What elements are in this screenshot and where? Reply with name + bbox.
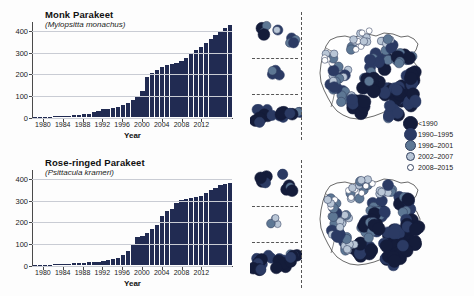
x-tick-label: 1984	[55, 269, 71, 276]
bar	[204, 43, 208, 117]
y-tick-label: 0	[0, 262, 28, 271]
bar	[199, 47, 203, 117]
species-latin-name: (Psittacula krameri)	[45, 169, 145, 177]
species-common-name: Rose-ringed Parakeet	[45, 158, 145, 168]
y-tick-label: 0	[0, 114, 28, 123]
map-occurrence-point	[348, 195, 354, 201]
parakeet-distribution-figure: Monk Parakeet (Myiopsitta monachus) 0100…	[0, 0, 474, 296]
bar	[121, 105, 125, 117]
bar	[72, 115, 76, 117]
y-tick-mark	[29, 31, 32, 32]
bar	[53, 116, 57, 117]
gridline	[32, 201, 232, 202]
y-tick-mark	[29, 179, 32, 180]
island-occurrence-point	[273, 26, 280, 33]
map-occurrence-point	[329, 82, 340, 93]
map-occurrence-point	[353, 46, 359, 52]
y-tick-mark	[29, 222, 32, 223]
x-tick-label: 1996	[114, 121, 130, 128]
y-tick-label: 400	[0, 175, 28, 184]
y-tick-label: 200	[0, 218, 28, 227]
map-occurrence-point	[402, 193, 415, 206]
y-tick-mark	[29, 244, 32, 245]
x-tick-label: 1980	[35, 269, 51, 276]
legend-item-label: 2002–2007	[418, 153, 453, 160]
island-inset-rose-ringed	[250, 160, 302, 288]
map-occurrence-point	[383, 35, 392, 44]
bar	[131, 100, 135, 117]
bar	[33, 117, 37, 118]
bar	[106, 260, 110, 265]
bar	[38, 117, 42, 118]
map-occurrence-point	[379, 206, 390, 217]
legend-item: 1996–2001	[402, 140, 474, 151]
island-points-rose-ringed	[250, 160, 302, 288]
y-tick-label: 300	[0, 197, 28, 206]
x-axis-ticks-monk: 198019841988199219962000200420082012	[32, 119, 233, 131]
bar	[179, 200, 183, 265]
bar	[67, 116, 71, 117]
bar	[204, 193, 208, 265]
gridline	[32, 96, 232, 97]
bar	[179, 61, 183, 117]
map-occurrence-point	[329, 212, 338, 221]
map-occurrence-point	[372, 222, 385, 235]
x-axis-ticks-rose-ringed: 198019841988199219962000200420082012	[32, 267, 233, 279]
bar	[184, 199, 188, 265]
island-occurrence-point	[285, 108, 295, 118]
island-occurrence-point	[278, 169, 288, 179]
legend-marker-icon	[402, 140, 418, 151]
x-tick-label: 2000	[134, 269, 150, 276]
map-legend: <19901990–19951996–20012002–20072008–201…	[402, 118, 474, 173]
bar	[92, 112, 96, 117]
x-tick-label: 2008	[174, 269, 190, 276]
map-occurrence-point	[350, 36, 358, 44]
bar	[87, 262, 91, 265]
bar	[38, 265, 42, 266]
bar	[228, 183, 232, 265]
bar	[209, 39, 213, 117]
bar	[213, 35, 217, 117]
bar	[170, 209, 174, 265]
map-occurrence-point	[366, 28, 372, 34]
inset-divider-lower	[252, 242, 298, 243]
bar	[145, 233, 149, 265]
bar	[62, 116, 66, 117]
bar	[57, 116, 61, 117]
bar	[62, 264, 66, 265]
legend-item: 2008–2015	[402, 162, 474, 173]
map-occurrence-point	[331, 230, 342, 241]
map-occurrence-point	[328, 65, 339, 76]
gridline	[32, 53, 232, 54]
x-axis-title-monk: Year	[32, 131, 233, 140]
bar	[116, 107, 120, 117]
inset-divider-upper	[252, 206, 298, 207]
x-tick-label: 1996	[114, 269, 130, 276]
bar	[194, 50, 198, 117]
plot-title-monk: Monk Parakeet (Myiopsitta monachus)	[45, 10, 125, 29]
x-tick-label: 2004	[154, 121, 170, 128]
bar	[223, 184, 227, 265]
bar	[213, 188, 217, 265]
x-tick-label: 1980	[35, 121, 51, 128]
bar	[67, 264, 71, 265]
map-occurrence-point	[388, 228, 399, 239]
species-common-name: Monk Parakeet	[45, 10, 125, 20]
x-tick-label: 1988	[75, 121, 91, 128]
map-occurrence-point	[363, 183, 369, 189]
bar	[43, 117, 47, 118]
legend-item-label: <1990	[418, 120, 438, 127]
map-occurrence-point	[378, 188, 386, 196]
y-tick-mark	[29, 96, 32, 97]
bar	[111, 108, 115, 117]
map-occurrence-point	[359, 30, 365, 36]
bar	[82, 263, 86, 265]
legend-item: 2002–2007	[402, 151, 474, 162]
island-occurrence-point	[255, 172, 267, 184]
map-occurrence-point	[359, 190, 365, 196]
map-occurrence-point	[388, 255, 401, 268]
bar	[77, 263, 81, 265]
bar	[82, 114, 86, 117]
bar-series-rose-ringed	[33, 169, 232, 265]
bar	[218, 185, 222, 265]
